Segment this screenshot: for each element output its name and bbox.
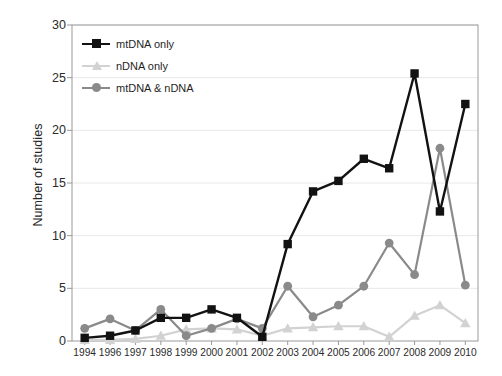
x-tick-label: 2002 <box>251 347 274 358</box>
series-line <box>85 305 466 340</box>
x-tick-label: 2006 <box>352 347 375 358</box>
series-line <box>85 73 466 337</box>
x-tick-label: 2010 <box>454 347 477 358</box>
legend-swatch-icon <box>82 81 110 95</box>
data-point-marker <box>309 312 318 321</box>
legend-marker-icon <box>92 83 101 92</box>
data-point-marker <box>385 164 393 172</box>
legend-label: mtDNA & nDNA <box>116 82 194 94</box>
x-tick-label: 2009 <box>429 347 452 358</box>
legend-label: nDNA only <box>116 60 168 72</box>
x-tick-label: 1996 <box>99 347 122 358</box>
series-mtdna-only <box>80 69 469 342</box>
data-point-marker <box>157 314 165 322</box>
series-mtdna-ndna <box>80 144 469 340</box>
x-tick-label: 2003 <box>276 347 299 358</box>
data-point-marker <box>207 305 215 313</box>
data-point-marker <box>106 314 115 323</box>
data-point-marker <box>461 100 469 108</box>
x-tick-label: 2004 <box>302 347 325 358</box>
series-line <box>85 148 466 335</box>
x-tick-label: 1999 <box>175 347 198 358</box>
legend-item-mtdna-only[interactable]: mtDNA only <box>82 33 232 55</box>
data-point-marker <box>131 326 139 334</box>
data-point-marker <box>360 155 368 163</box>
data-point-marker <box>283 282 292 291</box>
data-point-marker <box>283 240 291 248</box>
data-point-marker <box>233 314 241 322</box>
legend-swatch-icon <box>82 59 110 73</box>
data-point-marker <box>207 324 216 333</box>
data-point-marker <box>309 187 317 195</box>
data-point-marker <box>106 332 114 340</box>
x-tick-label: 2001 <box>226 347 249 358</box>
data-point-marker <box>436 144 445 153</box>
legend-marker-icon <box>92 39 101 48</box>
data-point-marker <box>334 177 342 185</box>
chart-figure: Number of studies 051015202530 199419961… <box>0 0 502 376</box>
chart-legend: mtDNA onlynDNA onlymtDNA & nDNA <box>82 33 232 99</box>
data-point-marker <box>410 69 418 77</box>
data-point-marker <box>334 301 343 310</box>
data-point-marker <box>359 282 368 291</box>
legend-label: mtDNA only <box>116 38 174 50</box>
legend-item-mtdna-ndna[interactable]: mtDNA & nDNA <box>82 77 232 99</box>
x-tick-label: 1994 <box>73 347 96 358</box>
x-tick-label: 2000 <box>200 347 223 358</box>
data-point-marker <box>80 324 89 333</box>
data-point-marker <box>156 305 165 314</box>
data-point-marker <box>436 207 444 215</box>
x-tick-label: 1997 <box>124 347 147 358</box>
data-point-marker <box>461 281 470 290</box>
legend-marker-icon <box>92 61 102 70</box>
plot-area <box>0 0 502 376</box>
legend-item-ndna-only[interactable]: nDNA only <box>82 55 232 77</box>
data-point-marker <box>182 314 190 322</box>
x-tick-label: 2007 <box>378 347 401 358</box>
legend-swatch-icon <box>82 37 110 51</box>
data-point-marker <box>385 239 394 248</box>
x-tick-label: 2005 <box>327 347 350 358</box>
data-point-marker <box>80 334 88 342</box>
data-point-marker <box>182 331 191 340</box>
x-tick-label: 1998 <box>149 347 172 358</box>
data-point-marker <box>258 333 266 341</box>
x-tick-label: 2008 <box>403 347 426 358</box>
data-point-marker <box>410 270 419 279</box>
data-point-marker <box>435 300 445 309</box>
